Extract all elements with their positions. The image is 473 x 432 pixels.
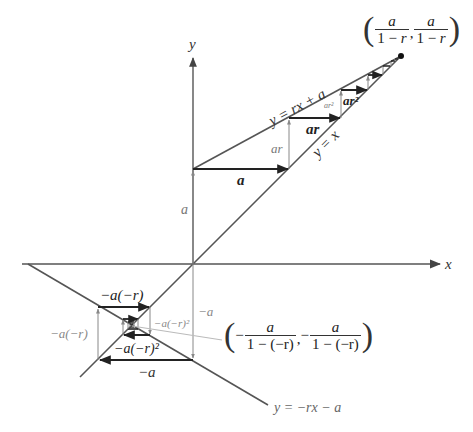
label-a-vertical: a bbox=[181, 202, 188, 217]
label-ar-horizontal: ar bbox=[306, 121, 320, 137]
fraction-x: a 1 − r bbox=[375, 13, 408, 46]
fixed-point-dot bbox=[398, 53, 404, 59]
label-ar-vertical: ar bbox=[271, 141, 284, 156]
close-paren: ) bbox=[362, 318, 373, 352]
close-paren: ) bbox=[449, 12, 460, 46]
fraction-x: a 1 − (−r) bbox=[245, 319, 296, 352]
fixed-point-negative-label: ( − a 1 − (−r) , − a 1 − (−r) ) bbox=[224, 318, 373, 352]
fraction-y: a 1 − r bbox=[414, 13, 447, 46]
label-neg-ar2-horizontal: −a(−r)² bbox=[114, 341, 160, 357]
lower-line-label: y = −rx − a bbox=[272, 400, 341, 415]
label-neg-a-vertical: −a bbox=[198, 304, 214, 319]
fixed-point-positive-label: ( a 1 − r , a 1 − r ) bbox=[363, 12, 460, 46]
label-neg-ar2-vertical: −a(−r)² bbox=[154, 317, 190, 330]
x-axis-label: x bbox=[444, 256, 452, 272]
fraction-y: a 1 − (−r) bbox=[310, 319, 361, 352]
label-neg-a-horizontal: −a bbox=[138, 364, 156, 380]
label-ar2-vertical: ar² bbox=[324, 101, 334, 110]
open-paren: ( bbox=[224, 318, 235, 352]
label-neg-ar-vertical: −a(−r) bbox=[50, 326, 88, 341]
open-paren: ( bbox=[363, 12, 374, 46]
label-ar2-horizontal: ar² bbox=[343, 93, 360, 108]
label-a-horizontal: a bbox=[237, 172, 245, 188]
diagram-svg: x y y = rx + a y = x y = −rx − a a a ar … bbox=[0, 0, 473, 432]
cobweb-diagram: x y y = rx + a y = x y = −rx − a a a ar … bbox=[0, 0, 473, 432]
label-neg-ar-horizontal: −a(−r) bbox=[100, 287, 144, 304]
y-axis-label: y bbox=[187, 36, 196, 52]
